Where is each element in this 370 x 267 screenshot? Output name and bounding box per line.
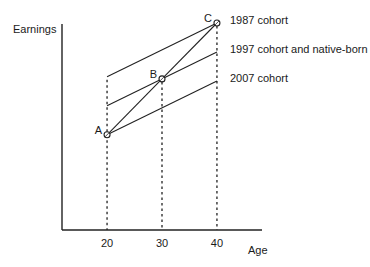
annotation-1: 1997 cohort and native-born: [230, 43, 368, 55]
cohort-earnings-chart: ABC 203040 1987 cohort1997 cohort and na…: [0, 0, 370, 267]
series-line-0: [107, 23, 217, 77]
y-axis-label: Earnings: [13, 23, 57, 35]
line-annotations: 1987 cohort1997 cohort and native-born20…: [230, 14, 368, 84]
x-axis-label: Age: [248, 244, 268, 256]
x-tick-label: 40: [211, 237, 223, 249]
x-tick-label: 20: [101, 237, 113, 249]
point-label-B: B: [150, 68, 157, 80]
dashed-guides: [107, 26, 217, 230]
point-label-C: C: [204, 12, 212, 24]
x-tick-labels: 203040: [101, 237, 223, 249]
annotation-2: 2007 cohort: [230, 72, 288, 84]
x-tick-label: 30: [156, 237, 168, 249]
point-label-A: A: [95, 124, 103, 136]
annotation-0: 1987 cohort: [230, 14, 288, 26]
